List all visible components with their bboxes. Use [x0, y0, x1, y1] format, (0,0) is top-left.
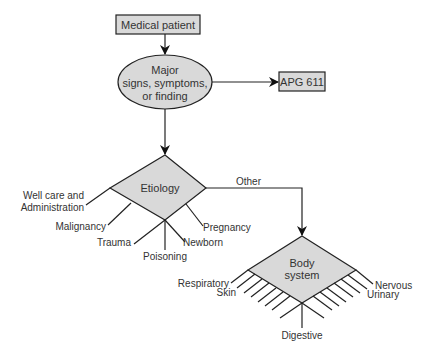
branch-left-8: [280, 303, 302, 318]
node-body-system: Body system: [248, 236, 356, 303]
body-system-line-2: system: [285, 269, 320, 281]
branch-trauma: [134, 220, 165, 244]
body-system-line-1: Body: [289, 257, 315, 269]
branch-nervous: [356, 270, 373, 284]
node-major-signs: Major signs, symptoms, or finding: [118, 55, 212, 109]
etiology-label: Etiology: [140, 182, 180, 194]
label-digestive: Digestive: [281, 330, 323, 341]
branch-newborn: [165, 220, 185, 242]
branch-malignancy: [108, 203, 131, 225]
label-newborn: Newborn: [183, 237, 223, 248]
flowchart-canvas: Medical patient Major signs, symptoms, o…: [0, 0, 428, 354]
major-signs-line-2: signs, symptoms,: [123, 77, 208, 89]
label-skin: Skin: [217, 287, 236, 298]
label-trauma: Trauma: [97, 237, 132, 248]
node-etiology: Etiology: [110, 155, 206, 220]
node-apg-611: APG 611: [279, 72, 325, 91]
label-well-care-line-1: Well care and: [23, 190, 84, 201]
branch-well-care: [86, 188, 110, 205]
label-poisoning: Poisoning: [143, 251, 187, 262]
label-malignancy: Malignancy: [55, 221, 106, 232]
apg-611-label: APG 611: [280, 76, 324, 88]
label-other: Other: [236, 176, 262, 187]
branch-right-1: [302, 303, 324, 318]
medical-patient-label: Medical patient: [121, 19, 195, 31]
label-well-care-line-2: Administration: [21, 202, 84, 213]
label-pregnancy: Pregnancy: [203, 222, 251, 233]
label-urinary: Urinary: [367, 289, 399, 300]
node-medical-patient: Medical patient: [116, 15, 200, 34]
branch-pregnancy: [186, 204, 203, 226]
major-signs-line-3: or finding: [142, 90, 187, 102]
major-signs-line-1: Major: [151, 64, 179, 76]
